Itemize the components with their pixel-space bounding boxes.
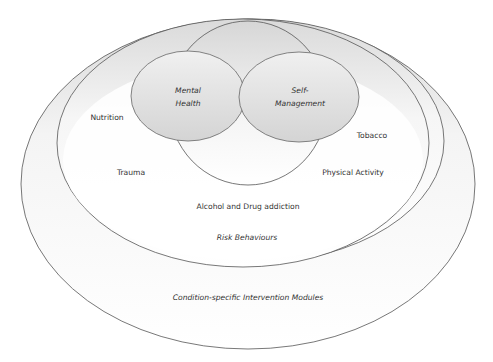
nutrition-label: Nutrition xyxy=(90,113,123,122)
self-management-bubble xyxy=(239,52,359,142)
risk-behaviours-title: Risk Behaviours xyxy=(217,233,278,242)
mental-health-bubble xyxy=(131,51,245,141)
mental-health-label-line1: Mental xyxy=(175,86,202,95)
trauma-label: Trauma xyxy=(116,168,145,177)
tobacco-label: Tobacco xyxy=(356,131,388,140)
condition-modules-title: Condition-specific Intervention Modules xyxy=(173,293,324,302)
self-management-label-line1: Self- xyxy=(292,86,309,95)
self-management-label-line2: Management xyxy=(275,99,326,108)
mental-health-label-line2: Health xyxy=(176,99,201,108)
nested-venn-diagram: Mental Health Self- Management Nutrition… xyxy=(0,0,493,362)
physical-activity-label: Physical Activity xyxy=(322,168,384,177)
alcohol-drug-label: Alcohol and Drug addiction xyxy=(197,202,300,211)
